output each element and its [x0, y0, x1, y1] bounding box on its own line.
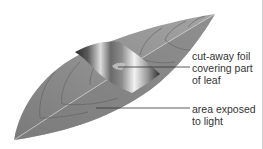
- foil-label: cut-away foil covering part of leaf: [192, 50, 253, 86]
- frame-edge: [262, 0, 263, 149]
- light-exposed-label: area exposed to light: [192, 103, 256, 127]
